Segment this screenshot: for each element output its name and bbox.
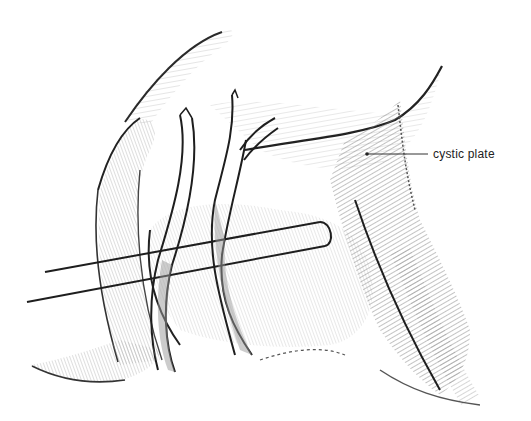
surgical-illustration: cystic plate: [0, 0, 531, 421]
illustration-drawing: [0, 0, 531, 421]
gallbladder: [149, 204, 373, 347]
label-cystic-plate: cystic plate: [433, 147, 495, 161]
label-leader-dot: [365, 152, 369, 156]
